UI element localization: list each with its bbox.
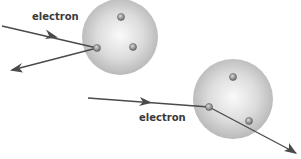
arrow-head-icon: [284, 143, 297, 154]
atom-bottom-right: [193, 59, 273, 139]
particle-collision-point: [206, 104, 213, 111]
particle-collision-point: [94, 45, 101, 52]
particle: [130, 44, 137, 51]
electron-label-bottom: electron: [139, 112, 186, 123]
electron-scattering-diagram: electron electron: [0, 0, 301, 159]
atom-sphere: [193, 59, 273, 139]
particle: [118, 14, 125, 21]
arrow-head-icon: [45, 30, 58, 40]
electron-label-top: electron: [32, 11, 79, 22]
particle: [246, 118, 253, 125]
atom-top-left: [82, 0, 158, 75]
outgoing-trajectory: [12, 48, 97, 70]
particle: [230, 74, 237, 81]
atom-sphere: [82, 0, 158, 75]
